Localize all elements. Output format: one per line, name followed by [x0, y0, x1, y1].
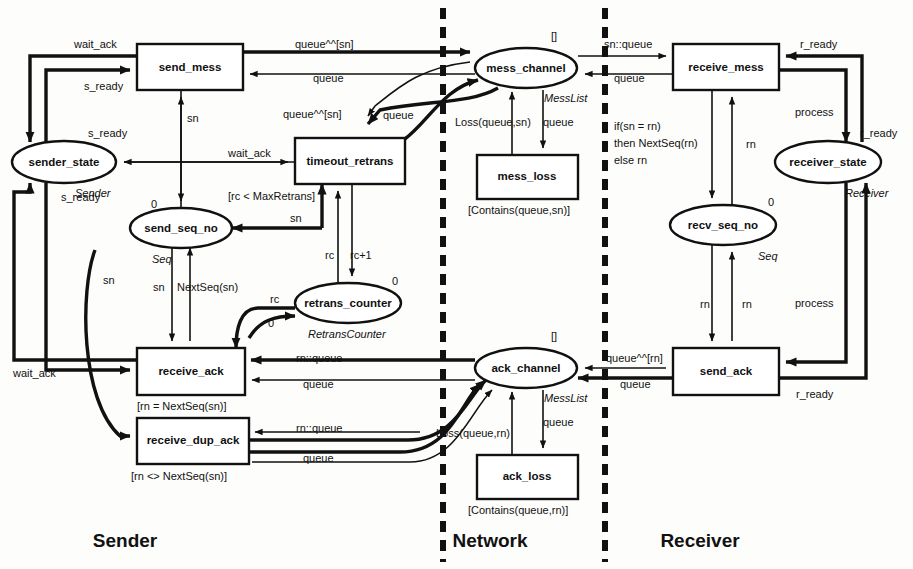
mess-loss-guard: [Contains(queue,sn)]: [468, 204, 570, 216]
ack-channel-label: ack_channel: [491, 362, 560, 374]
send-mess-label: send_mess: [159, 61, 222, 73]
zone-label-network: Network: [453, 530, 528, 551]
recv-seq-no-type: Seq: [758, 250, 778, 262]
arc-label-loss-queue-sn: Loss(queue,sn): [455, 116, 531, 128]
retrans-counter-init: 0: [392, 275, 398, 287]
send-seq-no-label: send_seq_no: [144, 222, 218, 234]
arc-label-queue-rn-bot: queue^^[rn]: [606, 352, 663, 364]
place-receiver-state[interactable]: receiver_state Receiver: [775, 141, 890, 199]
arc-label-wait-ack-mid: wait_ack: [227, 147, 271, 159]
transition-send-mess[interactable]: send_mess: [137, 44, 243, 90]
arc-label-queue-ackloss: queue: [543, 416, 574, 428]
arc-label-zero-retrans: 0: [268, 317, 274, 329]
arc-receiver-state-to-send-ack: [786, 183, 846, 362]
arc-label-then-nextseq: then NextSeq(rn): [614, 137, 698, 149]
arc-label-wait-ack-top: wait_ack: [73, 38, 117, 50]
arc-label-sn-nextseq-left: sn: [153, 281, 165, 293]
timeout-retrans-label: timeout_retrans: [307, 155, 394, 167]
transition-ack-loss[interactable]: ack_loss [Contains(queue,rn)]: [468, 455, 578, 516]
ack-loss-label: ack_loss: [503, 470, 552, 482]
arc-label-loss-queue-rn: Loss(queue,rn): [436, 427, 510, 439]
transition-mess-loss[interactable]: mess_loss [Contains(queue,sn)]: [468, 155, 578, 216]
timeout-retrans-guard: [rc < MaxRetrans]: [228, 190, 315, 202]
arc-label-r-ready-top: r_ready: [800, 38, 838, 50]
zone-labels: Sender Network Receiver: [93, 530, 740, 551]
mess-channel-label: mess_channel: [486, 62, 565, 74]
recv-seq-no-init: 0: [768, 196, 774, 208]
receiver-state-type: Receiver: [845, 187, 890, 199]
place-retrans-counter[interactable]: retrans_counter RetransCounter 0: [295, 275, 401, 340]
ack-channel-init: []: [551, 330, 557, 342]
send-seq-no-init: 0: [151, 198, 157, 210]
arc-label-sn-left: sn: [103, 274, 115, 286]
arc-label-rn-sendack-2: rn: [742, 298, 752, 310]
arc-label-wait-ack-bottom: wait_ack: [12, 367, 56, 379]
arc-label-queue-sn-top: queue^^[sn]: [295, 38, 354, 50]
ack-loss-guard: [Contains(queue,rn)]: [468, 504, 568, 516]
receive-ack-guard: [rn = NextSeq(sn)]: [137, 400, 227, 412]
arc-label-s-ready-mid: s_ready: [88, 127, 128, 139]
receive-dup-ack-label: receive_dup_ack: [147, 434, 240, 446]
arc-label-nextseq-sn: NextSeq(sn): [177, 281, 238, 293]
transition-receive-ack[interactable]: receive_ack [rn = NextSeq(sn)]: [137, 348, 245, 412]
retrans-counter-label: retrans_counter: [304, 297, 392, 309]
diagram-page: send_mess timeout_retrans [rc < MaxRetra…: [0, 0, 913, 569]
transition-receive-mess[interactable]: receive_mess: [673, 44, 779, 90]
arc-retrans-counter-to-receive-ack: [236, 308, 295, 348]
arc-label-r-ready-mid: r_ready: [860, 127, 898, 139]
arc-label-s-ready-top: s_ready: [84, 80, 124, 92]
zone-label-receiver: Receiver: [660, 530, 740, 551]
arc-label-rc-2: rc: [270, 293, 280, 305]
mess-channel-init: []: [551, 30, 557, 42]
arc-label-queue-messloss: queue: [543, 116, 574, 128]
ack-channel-type: MessList: [544, 392, 588, 404]
receive-mess-label: receive_mess: [688, 61, 763, 73]
arc-label-rn-recvmess: rn: [746, 138, 756, 150]
send-seq-no-type: Seq: [152, 253, 172, 265]
arc-label-else-rn: else rn: [614, 154, 647, 166]
receiver-state-label: receiver_state: [789, 156, 866, 168]
arc-label-r-ready-bot: r_ready: [796, 388, 834, 400]
arc-label-queue-mid: queue: [383, 109, 414, 121]
recv-seq-no-label: recv_seq_no: [688, 219, 758, 231]
transitions: send_mess timeout_retrans [rc < MaxRetra…: [131, 44, 779, 516]
mess-loss-label: mess_loss: [498, 170, 557, 182]
receive-ack-label: receive_ack: [158, 365, 224, 377]
transition-send-ack[interactable]: send_ack: [673, 348, 779, 395]
send-ack-label: send_ack: [700, 365, 753, 377]
arc-label-rn-queue-dup: rn::queue: [296, 422, 342, 434]
arc-label-process-bot: process: [795, 297, 834, 309]
retrans-counter-type: RetransCounter: [308, 328, 387, 340]
arc-label-queue-recvack: queue: [303, 378, 334, 390]
place-recv-seq-no[interactable]: recv_seq_no Seq 0: [670, 196, 778, 262]
arc-label-sn-timeout: sn: [290, 212, 302, 224]
place-send-seq-no[interactable]: send_seq_no Seq 0: [130, 198, 232, 265]
arc-send-ack-to-receiver-state: [779, 183, 866, 378]
protocol-cpn-diagram: send_mess timeout_retrans [rc < MaxRetra…: [0, 0, 913, 569]
arc-label-queue-recvmess: queue: [614, 72, 645, 84]
arc-label-rc-1: rc: [325, 249, 335, 261]
arc-label-queue-sn-mid: queue^^[sn]: [283, 108, 342, 120]
sender-state-label: sender_state: [29, 156, 100, 168]
receive-dup-ack-guard: [rn <> NextSeq(sn)]: [131, 470, 227, 482]
arc-label-s-ready-low: s_ready: [61, 191, 101, 203]
arc-label-queue-dup: queue: [303, 452, 334, 464]
arc-label-rc-plus1: rc+1: [350, 249, 372, 261]
arc-label-sn-queue: sn::queue: [604, 38, 652, 50]
arc-receive-ack-to-sender-state: [14, 183, 137, 360]
arc-label-queue-top: queue: [313, 72, 344, 84]
arc-label-rn-queue-ack: rn::queue: [296, 352, 342, 364]
mess-channel-type: MessList: [544, 92, 588, 104]
arc-label-sn-sendmess: sn: [187, 112, 199, 124]
transition-receive-dup-ack[interactable]: receive_dup_ack [rn <> NextSeq(sn)]: [131, 418, 249, 482]
arc-label-rn-sendack-1: rn: [700, 298, 710, 310]
arc-label-queue-sendack: queue: [620, 378, 651, 390]
place-mess-channel[interactable]: mess_channel MessList []: [475, 30, 588, 104]
arc-label-if-sn-rn: if(sn = rn): [614, 120, 661, 132]
place-ack-channel[interactable]: ack_channel MessList []: [475, 330, 588, 404]
arc-label-process-top: process: [795, 106, 834, 118]
zone-label-sender: Sender: [93, 530, 158, 551]
